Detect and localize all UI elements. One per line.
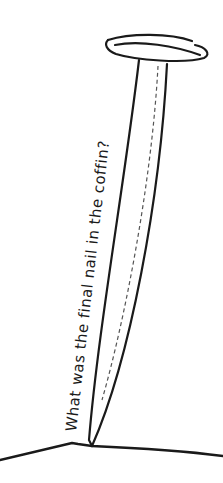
nail-shank — [89, 60, 167, 446]
nail-illustration: What was the final nail in the coffin? — [0, 0, 223, 483]
nail-shank-right-edge — [92, 64, 167, 446]
nail-head — [106, 35, 207, 61]
ground-line — [0, 443, 223, 460]
nail-head-top-edge — [108, 35, 192, 41]
nail-shank-highlight — [102, 66, 158, 400]
caption-text: What was the final nail in the coffin? — [62, 139, 113, 432]
nail-head-inner-rim — [115, 43, 200, 55]
